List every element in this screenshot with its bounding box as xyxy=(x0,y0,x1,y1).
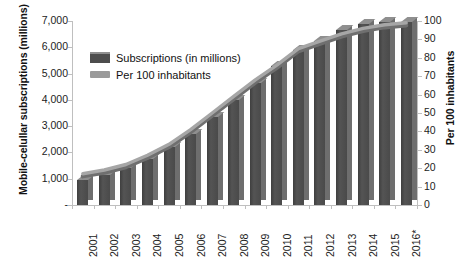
x-axis-tick-label: 2005 xyxy=(173,234,185,257)
y-axis-right-ticks: 0102030405060708090100 xyxy=(424,0,460,267)
x-axis-tick-label: 2009 xyxy=(259,234,271,257)
y-left-tick-label: 7,000 xyxy=(42,14,68,26)
x-axis-labels: 2001200220032004200520062007200820092010… xyxy=(72,209,417,267)
y-left-tick-mark xyxy=(68,47,72,48)
y-right-tick-mark xyxy=(417,187,422,188)
y-left-tick-label: 3,000 xyxy=(42,119,68,131)
x-axis-tick-label: 2014 xyxy=(367,234,379,257)
y-left-tick-label: 2,000 xyxy=(42,145,68,157)
y-left-tick-mark xyxy=(68,100,72,101)
chart-container: Mobile-celullar subscriptions (millions)… xyxy=(0,0,462,267)
legend-label-subscriptions: Subscriptions (in millions) xyxy=(116,52,241,64)
y-left-tick-mark xyxy=(68,21,72,22)
y-left-tick-mark xyxy=(68,74,72,75)
y-right-tick-label: 40 xyxy=(424,124,436,136)
y-right-tick-mark xyxy=(417,113,422,114)
y-right-tick-mark xyxy=(417,21,422,22)
y-right-tick-label: 70 xyxy=(424,69,436,81)
x-axis-tick-label: 2004 xyxy=(151,234,163,257)
y-left-tick-label: 6,000 xyxy=(42,40,68,52)
legend-bar-swatch-icon xyxy=(90,52,110,63)
y-right-tick-mark xyxy=(417,39,422,40)
legend-label-per-100: Per 100 inhabitants xyxy=(116,69,211,81)
legend-line-swatch-icon xyxy=(90,71,110,78)
legend-item-per-100: Per 100 inhabitants xyxy=(90,67,300,82)
x-axis-tick-label: 2001 xyxy=(87,234,99,257)
x-axis-tick-label: 2015 xyxy=(389,234,401,257)
y-right-tick-label: 10 xyxy=(424,180,436,192)
y-axis-left-ticks: -1,0002,0003,0004,0005,0006,0007,000 xyxy=(20,0,68,267)
y-right-tick-label: 100 xyxy=(424,14,442,26)
x-axis-tick-label: 2012 xyxy=(324,234,336,257)
y-right-tick-label: 30 xyxy=(424,143,436,155)
y-right-tick-mark xyxy=(417,58,422,59)
y-right-tick-mark xyxy=(417,150,422,151)
x-axis-tick-label: 2002 xyxy=(108,234,120,257)
x-axis-tick-label: 2008 xyxy=(238,234,250,257)
y-left-tick-label: 4,000 xyxy=(42,93,68,105)
x-axis-tick-label: 2016* xyxy=(410,230,422,257)
x-axis-tick-label: 2003 xyxy=(130,234,142,257)
y-left-tick-mark xyxy=(68,179,72,180)
y-right-tick-label: 0 xyxy=(424,198,430,210)
y-right-tick-label: 80 xyxy=(424,51,436,63)
y-right-tick-label: 90 xyxy=(424,32,436,44)
x-axis-tick-label: 2007 xyxy=(216,234,228,257)
x-axis-tick-label: 2010 xyxy=(281,234,293,257)
y-right-tick-mark xyxy=(417,76,422,77)
y-right-tick-mark xyxy=(417,168,422,169)
y-left-tick-mark xyxy=(68,126,72,127)
y-right-tick-label: 50 xyxy=(424,106,436,118)
y-left-tick-mark xyxy=(68,152,72,153)
y-right-tick-label: 20 xyxy=(424,161,436,173)
y-right-tick-mark xyxy=(417,95,422,96)
plot-area xyxy=(72,21,417,205)
x-axis-tick-label: 2011 xyxy=(302,234,314,257)
y-left-tick-label: 1,000 xyxy=(42,172,68,184)
y-left-tick-label: 5,000 xyxy=(42,67,68,79)
y-right-tick-mark xyxy=(417,131,422,132)
y-right-tick-label: 60 xyxy=(424,88,436,100)
line-series xyxy=(72,21,417,206)
x-axis-tick-label: 2006 xyxy=(195,234,207,257)
chart-legend: Subscriptions (in millions) Per 100 inha… xyxy=(90,50,300,84)
x-axis-tick-label: 2013 xyxy=(346,234,358,257)
legend-item-subscriptions: Subscriptions (in millions) xyxy=(90,50,300,65)
x-axis-tick-mark xyxy=(417,205,418,209)
y-left-tick-label: - xyxy=(65,198,69,210)
